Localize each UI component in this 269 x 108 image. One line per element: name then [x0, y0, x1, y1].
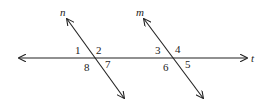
angle-5-label: 5 [185, 58, 191, 70]
angle-2-label: 2 [96, 44, 102, 56]
parallel-lines-diagram: t n m 1 2 8 7 3 4 6 5 [0, 0, 269, 108]
line-t-label: t [251, 52, 255, 64]
angle-3-label: 3 [155, 44, 161, 56]
angle-8-label: 8 [84, 61, 90, 73]
angle-6-label: 6 [163, 61, 169, 73]
line-n-label: n [60, 6, 66, 18]
line-m-label: m [136, 6, 144, 18]
angle-7-label: 7 [105, 58, 111, 70]
angle-1-label: 1 [75, 44, 81, 56]
angle-4-label: 4 [175, 43, 181, 55]
